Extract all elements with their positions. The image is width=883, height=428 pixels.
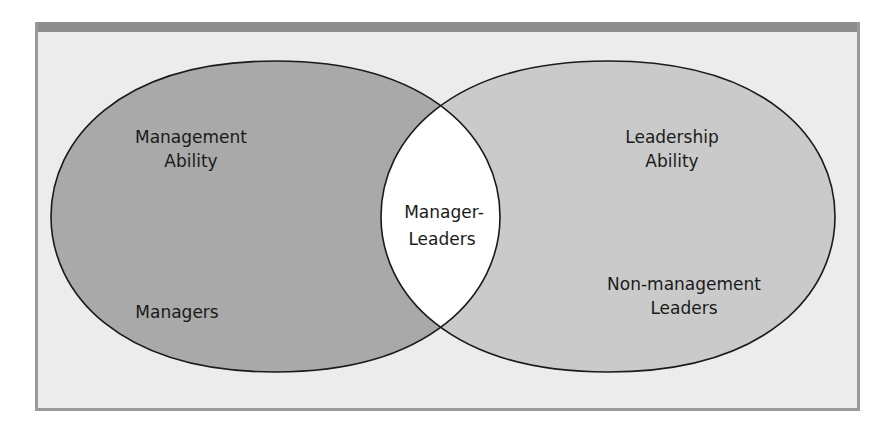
right-set-title-line1: Leadership xyxy=(625,127,718,147)
right-set-title-line2: Ability xyxy=(645,151,698,171)
left-set-title-line2: Ability xyxy=(164,151,217,171)
right-set-exclusive-label-line2: Leaders xyxy=(650,298,717,318)
venn-diagram: Management Ability Managers Manager- Lea… xyxy=(0,0,883,428)
intersection-label-line1: Manager- xyxy=(404,202,484,222)
right-set-exclusive-label-line1: Non-management xyxy=(607,274,761,294)
intersection-label-line2: Leaders xyxy=(408,229,475,249)
left-set-exclusive-label: Managers xyxy=(135,302,219,322)
left-set-title-line1: Management xyxy=(135,127,247,147)
